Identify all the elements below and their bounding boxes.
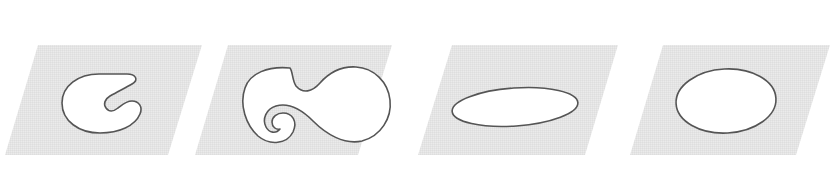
panel-1 (5, 45, 202, 155)
panel-4 (630, 45, 830, 155)
panel-3 (418, 45, 618, 155)
figure-root (0, 0, 833, 178)
figure-canvas (0, 0, 833, 178)
panel-2 (195, 45, 392, 155)
panel-1-kidney-c-shape-region (62, 74, 141, 133)
